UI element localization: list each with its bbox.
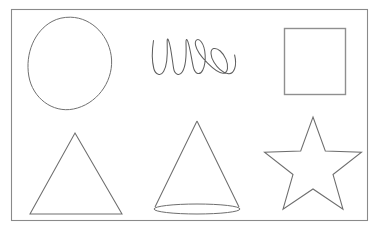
page-background [0, 0, 383, 235]
sketch-canvas [0, 0, 383, 235]
shapes-drawing [0, 0, 383, 235]
